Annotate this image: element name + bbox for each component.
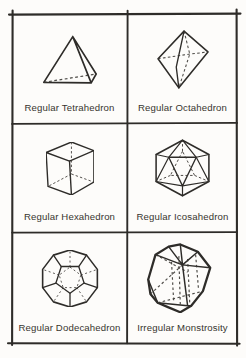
tetrahedron-icon [42,35,98,84]
hexahedron-icon [46,142,94,195]
polyhedron-cell-octahedron: Regular Octahedron [129,16,236,122]
polyhedron-label: Regular Hexahedron [24,211,115,222]
polyhedron-cell-irregular-monstrosity: Irregular Monstrosity [129,234,236,342]
polyhedron-label: Regular Dodecahedron [18,322,120,333]
polyhedron-cell-hexahedron: Regular Hexahedron [13,125,126,231]
icosahedron-icon [155,139,210,197]
polyhedron-label: Regular Icosahedron [137,211,229,222]
polyhedron-cell-dodecahedron: Regular Dodecahedron [13,234,126,342]
polyhedron-cell-tetrahedron: Regular Tetrahedron [13,16,126,122]
figure-area [129,234,236,322]
octahedron-icon [157,30,209,89]
figure-area [13,16,126,102]
dodecahedron-icon [41,250,99,307]
figure-area [129,16,236,102]
figure-area [129,125,236,211]
polyhedron-label: Regular Tetrahedron [24,102,114,113]
figure-area [13,125,126,211]
polyhedron-cell-icosahedron: Regular Icosahedron [129,125,236,231]
polyhedra-table-page: Regular Tetrahedron Regular Octahedron R… [0,0,246,358]
polyhedron-label: Regular Octahedron [138,102,227,113]
irregular-monstrosity-icon [146,243,219,313]
figure-area [13,234,126,322]
polyhedron-label: Irregular Monstrosity [137,322,228,333]
